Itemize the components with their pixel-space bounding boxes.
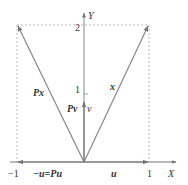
reflection-diagram: Y 2 1 Px x Pv v −1 −u=Pu u 1 X <box>0 0 188 185</box>
x-tick-label-neg1: −1 <box>8 168 19 179</box>
x-axis-label: X <box>167 168 175 179</box>
label-neg-u-pu: −u=Pu <box>33 168 62 179</box>
y-tick-label-2: 2 <box>75 22 80 33</box>
label-px: Px <box>33 87 44 98</box>
x-tick-label-1: 1 <box>147 168 152 179</box>
label-v: v <box>87 103 92 114</box>
y-axis-label: Y <box>88 10 95 21</box>
label-x: x <box>109 81 115 92</box>
label-u: u <box>111 168 117 179</box>
label-pv: Pv <box>67 103 78 114</box>
vector-x <box>84 26 148 162</box>
y-tick-label-1: 1 <box>75 84 80 95</box>
